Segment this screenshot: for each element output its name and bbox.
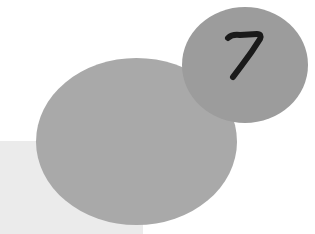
number-badge-circle: 7	[182, 7, 308, 123]
number-seven-glyph: 7	[182, 7, 308, 123]
